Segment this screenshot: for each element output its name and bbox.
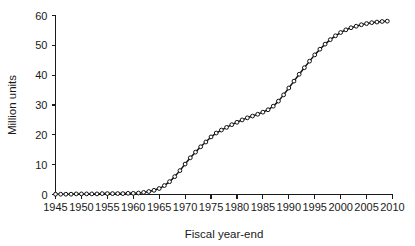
data-point-1978: [225, 125, 229, 129]
data-point-1969: [178, 169, 182, 173]
x-tick-label-2010: 2010: [380, 201, 404, 213]
data-point-1999: [334, 34, 338, 38]
data-point-2008: [380, 20, 384, 24]
x-tick-label-1990: 1990: [277, 201, 301, 213]
data-point-1996: [318, 47, 322, 51]
data-point-2003: [354, 24, 358, 28]
data-point-1987: [271, 104, 275, 108]
data-point-1970: [183, 162, 187, 166]
data-point-1955: [105, 192, 109, 196]
data-point-1993: [302, 66, 306, 70]
data-point-1951: [85, 192, 89, 196]
data-point-1986: [266, 108, 270, 112]
data-point-1957: [116, 192, 120, 196]
data-point-1946: [59, 192, 63, 196]
data-point-1960: [131, 191, 135, 195]
data-point-1989: [282, 93, 286, 97]
x-axis-tick-labels: 1945195019551960196519701975198019851990…: [43, 201, 404, 213]
data-point-1964: [152, 188, 156, 192]
data-point-1977: [220, 128, 224, 132]
data-point-2006: [370, 21, 374, 25]
data-point-1971: [188, 156, 192, 160]
data-point-1998: [328, 38, 332, 42]
y-tick-label-20: 20: [35, 129, 47, 141]
y-tick-label-30: 30: [35, 99, 47, 111]
data-point-1947: [64, 192, 68, 196]
data-point-1967: [168, 180, 172, 184]
data-point-2000: [339, 31, 343, 35]
y-tick-label-10: 10: [35, 159, 47, 171]
data-point-1975: [209, 135, 213, 139]
y-axis-title: Million units: [6, 75, 18, 135]
data-point-2009: [385, 19, 389, 23]
data-point-1961: [137, 191, 141, 195]
data-point-1983: [251, 114, 255, 118]
x-tick-label-1950: 1950: [69, 201, 93, 213]
data-point-2002: [349, 26, 353, 30]
x-tick-label-1945: 1945: [43, 201, 67, 213]
data-point-1972: [194, 150, 198, 154]
x-tick-label-1965: 1965: [147, 201, 171, 213]
data-point-1968: [173, 175, 177, 179]
data-point-2001: [344, 28, 348, 32]
data-point-1994: [308, 59, 312, 63]
data-point-1995: [313, 53, 317, 57]
x-tick-label-1960: 1960: [121, 201, 145, 213]
data-point-1974: [204, 140, 208, 144]
data-point-1990: [287, 86, 291, 90]
y-tick-label-50: 50: [35, 39, 47, 51]
data-point-1988: [277, 99, 281, 103]
data-point-2007: [375, 20, 379, 24]
data-point-1991: [292, 79, 296, 83]
data-point-1981: [240, 118, 244, 122]
data-point-1963: [147, 190, 151, 194]
x-tick-label-2005: 2005: [354, 201, 378, 213]
data-point-1953: [95, 192, 99, 196]
data-point-1985: [261, 110, 265, 114]
data-point-2005: [365, 22, 369, 26]
data-point-1997: [323, 42, 327, 46]
x-tick-label-1970: 1970: [173, 201, 197, 213]
data-point-1962: [142, 191, 146, 195]
data-point-2004: [359, 23, 363, 27]
data-point-1948: [69, 192, 73, 196]
x-tick-label-1980: 1980: [225, 201, 249, 213]
data-point-1954: [100, 192, 104, 196]
data-point-1982: [245, 116, 249, 120]
data-point-1980: [235, 120, 239, 124]
y-tick-label-60: 60: [35, 10, 47, 22]
data-point-1965: [157, 187, 161, 191]
y-tick-label-0: 0: [41, 189, 47, 201]
y-tick-label-40: 40: [35, 69, 47, 81]
x-tick-label-1955: 1955: [95, 201, 119, 213]
x-tick-label-1985: 1985: [251, 201, 275, 213]
data-point-1949: [74, 192, 78, 196]
x-tick-label-1995: 1995: [302, 201, 326, 213]
line-chart: 0102030405060 19451950195519601965197019…: [0, 0, 415, 246]
data-point-1952: [90, 192, 94, 196]
x-tick-label-1975: 1975: [199, 201, 223, 213]
data-point-1992: [297, 72, 301, 76]
data-point-1966: [162, 184, 166, 188]
chart-figure: 0102030405060 19451950195519601965197019…: [0, 0, 415, 246]
data-point-1973: [199, 145, 203, 149]
data-point-1959: [126, 191, 130, 195]
data-point-1956: [111, 192, 115, 196]
x-tick-label-2000: 2000: [328, 201, 352, 213]
data-point-1984: [256, 112, 260, 116]
x-axis-title: Fiscal year-end: [185, 228, 264, 240]
data-point-1950: [80, 192, 84, 196]
data-point-1945: [54, 192, 58, 196]
data-point-1958: [121, 192, 125, 196]
data-point-1979: [230, 123, 234, 127]
data-point-1976: [214, 131, 218, 135]
